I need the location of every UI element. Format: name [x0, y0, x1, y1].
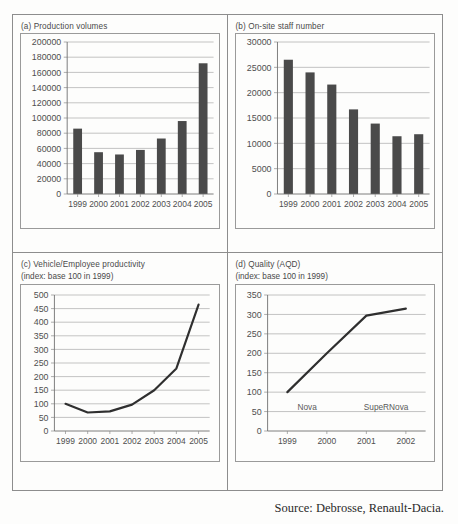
chart-d-line-chart: 050100150200250300350 NovaSupeRNova 1999… — [236, 285, 435, 461]
svg-text:350: 350 — [34, 331, 49, 341]
panel-c-subtitle: (index: base 100 in 1999) — [21, 271, 220, 282]
chart-b-frame: 050001000015000200002500030000 199920002… — [235, 33, 436, 229]
chart-c-line-chart: 050100150200250300350400450500 199920002… — [21, 285, 219, 461]
svg-text:2003: 2003 — [152, 199, 171, 209]
svg-text:2004: 2004 — [167, 436, 186, 446]
svg-text:1999: 1999 — [277, 436, 296, 446]
source-caption: Source: Debrosse, Renault-Dacia. — [275, 501, 444, 516]
svg-text:2000: 2000 — [89, 199, 108, 209]
svg-text:15000: 15000 — [246, 113, 271, 123]
svg-text:2004: 2004 — [387, 199, 406, 209]
chart-a-bars — [73, 63, 207, 194]
svg-text:1999: 1999 — [68, 199, 87, 209]
svg-text:2002: 2002 — [344, 199, 363, 209]
panel-d-subtitle: (index: base 100 in 1999) — [236, 271, 436, 282]
chart-b-bar-chart: 050001000015000200002500030000 199920002… — [236, 34, 435, 228]
svg-text:SupeRNova: SupeRNova — [363, 402, 408, 412]
svg-text:2002: 2002 — [131, 199, 150, 209]
chart-a-yticklabels: 0200004000060000800001000001200001400001… — [32, 37, 62, 199]
svg-text:2005: 2005 — [189, 436, 208, 446]
svg-text:200: 200 — [34, 372, 49, 382]
chart-c-gridlines — [54, 295, 209, 417]
chart-d-xticklabels: 1999200020012002 — [277, 436, 415, 446]
svg-text:2005: 2005 — [194, 199, 213, 209]
svg-text:2002: 2002 — [123, 436, 142, 446]
svg-text:140000: 140000 — [32, 83, 62, 93]
svg-text:2001: 2001 — [356, 436, 375, 446]
chart-c-xticklabels: 1999200020012002200320042005 — [56, 436, 208, 446]
svg-text:40000: 40000 — [37, 159, 62, 169]
panel-a-production-volumes: (a) Production volumes 02000040000600008… — [13, 15, 228, 253]
svg-text:200: 200 — [246, 348, 261, 358]
svg-text:2005: 2005 — [409, 199, 428, 209]
svg-text:2000: 2000 — [317, 436, 336, 446]
svg-text:2001: 2001 — [110, 199, 129, 209]
svg-text:100: 100 — [34, 399, 49, 409]
svg-text:2001: 2001 — [322, 199, 341, 209]
chart-d-gridlines — [267, 295, 425, 412]
svg-text:20000: 20000 — [37, 174, 62, 184]
svg-text:300: 300 — [246, 310, 261, 320]
panel-b-onsite-staff-number: (b) On-site staff number 050001000015000… — [228, 15, 443, 253]
svg-text:10000: 10000 — [246, 138, 271, 148]
svg-text:200000: 200000 — [32, 37, 62, 47]
svg-text:2004: 2004 — [173, 199, 192, 209]
panel-b-title: (b) On-site staff number — [236, 21, 436, 32]
svg-text:500: 500 — [34, 290, 49, 300]
svg-text:25000: 25000 — [246, 62, 271, 72]
svg-text:2000: 2000 — [78, 436, 97, 446]
svg-text:150: 150 — [34, 385, 49, 395]
svg-text:30000: 30000 — [246, 37, 271, 47]
svg-text:100000: 100000 — [32, 113, 62, 123]
svg-text:2000: 2000 — [300, 199, 319, 209]
figure-grid: (a) Production volumes 02000040000600008… — [12, 14, 443, 491]
svg-text:2003: 2003 — [365, 199, 384, 209]
svg-text:180000: 180000 — [32, 52, 62, 62]
svg-text:400: 400 — [34, 317, 49, 327]
panel-c-vehicle-employee-productivity: (c) Vehicle/Employee productivity (index… — [13, 253, 228, 490]
svg-text:160000: 160000 — [32, 68, 62, 78]
svg-text:2001: 2001 — [100, 436, 119, 446]
panel-d-title: (d) Quality (AQD) — [236, 259, 436, 270]
svg-text:0: 0 — [56, 189, 61, 199]
chart-c-yticklabels: 050100150200250300350400450500 — [34, 290, 49, 436]
svg-text:0: 0 — [44, 426, 49, 436]
svg-text:450: 450 — [34, 304, 49, 314]
svg-text:50: 50 — [39, 413, 49, 423]
chart-a-bar-chart: 0200004000060000800001000001200001400001… — [21, 34, 219, 228]
chart-c-series — [65, 305, 198, 413]
svg-text:0: 0 — [256, 426, 261, 436]
svg-text:20000: 20000 — [246, 88, 271, 98]
svg-text:100: 100 — [246, 387, 261, 397]
chart-d-yticklabels: 050100150200250300350 — [246, 290, 261, 436]
panel-a-title: (a) Production volumes — [21, 21, 220, 32]
svg-text:60000: 60000 — [37, 144, 62, 154]
chart-a-frame: 0200004000060000800001000001200001400001… — [20, 33, 220, 229]
chart-c-frame: 050100150200250300350400450500 199920002… — [20, 284, 220, 462]
chart-c-axes — [51, 295, 210, 434]
panel-c-title: (c) Vehicle/Employee productivity — [21, 259, 220, 270]
chart-d-annotations: NovaSupeRNova — [297, 402, 408, 412]
chart-b-yticklabels: 050001000015000200002500030000 — [246, 37, 271, 199]
svg-text:80000: 80000 — [37, 128, 62, 138]
chart-d-frame: 050100150200250300350 NovaSupeRNova 1999… — [235, 284, 436, 462]
svg-text:5000: 5000 — [251, 164, 271, 174]
svg-text:150: 150 — [246, 368, 261, 378]
svg-text:1999: 1999 — [278, 199, 297, 209]
chart-b-xticklabels: 1999200020012002200320042005 — [278, 199, 427, 209]
svg-text:50: 50 — [251, 407, 261, 417]
svg-text:Nova: Nova — [297, 402, 317, 412]
svg-text:120000: 120000 — [32, 98, 62, 108]
chart-b-bars — [283, 60, 422, 194]
svg-text:250: 250 — [246, 329, 261, 339]
svg-text:2003: 2003 — [145, 436, 164, 446]
svg-text:350: 350 — [246, 290, 261, 300]
svg-text:250: 250 — [34, 358, 49, 368]
svg-text:300: 300 — [34, 345, 49, 355]
chart-a-xticklabels: 1999200020012002200320042005 — [68, 199, 213, 209]
svg-text:0: 0 — [266, 189, 271, 199]
svg-text:1999: 1999 — [56, 436, 75, 446]
chart-d-series — [287, 309, 406, 393]
scanned-page: (a) Production volumes 02000040000600008… — [0, 0, 458, 524]
panel-d-quality-aqd: (d) Quality (AQD) (index: base 100 in 19… — [228, 253, 443, 490]
